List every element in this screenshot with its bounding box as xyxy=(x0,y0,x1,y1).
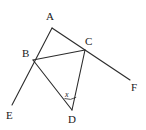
segment-C-D xyxy=(72,50,85,110)
geometry-figure: A B C D E F x xyxy=(0,0,146,130)
segment-A-E xyxy=(12,28,52,105)
figure-canvas xyxy=(0,0,146,130)
vertex-label-d: D xyxy=(68,114,76,125)
vertex-label-f: F xyxy=(131,82,137,93)
vertex-label-e: E xyxy=(6,110,13,121)
vertex-label-c: C xyxy=(85,36,92,47)
segment-B-C xyxy=(33,50,85,60)
vertex-label-b: B xyxy=(22,48,29,59)
angle-label-x: x xyxy=(65,91,69,99)
segment-B-D xyxy=(33,60,72,110)
vertex-label-a: A xyxy=(46,11,54,22)
